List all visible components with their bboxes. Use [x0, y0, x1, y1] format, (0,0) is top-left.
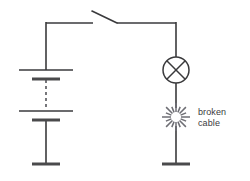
lamp-symbol[interactable]	[163, 57, 189, 83]
burst-ray	[172, 107, 174, 112]
broken-cable-burst-icon	[162, 103, 190, 131]
switch-lever-open[interactable]	[92, 11, 117, 23]
broken-cable-label-line1: broken	[198, 107, 226, 117]
circuit-diagram: brokencable	[0, 0, 250, 181]
circuit-schematic-canvas	[0, 0, 250, 181]
broken-cable-label: brokencable	[198, 107, 226, 128]
burst-ray	[166, 119, 171, 121]
burst-ray	[166, 113, 171, 115]
burst-ray	[181, 113, 186, 115]
burst-ray	[178, 122, 180, 127]
switch-group[interactable]	[46, 11, 176, 23]
burst-ray	[172, 122, 174, 127]
burst-ray	[181, 119, 186, 121]
burst-ray	[178, 107, 180, 112]
broken-cable-label-line2: cable	[198, 118, 220, 128]
